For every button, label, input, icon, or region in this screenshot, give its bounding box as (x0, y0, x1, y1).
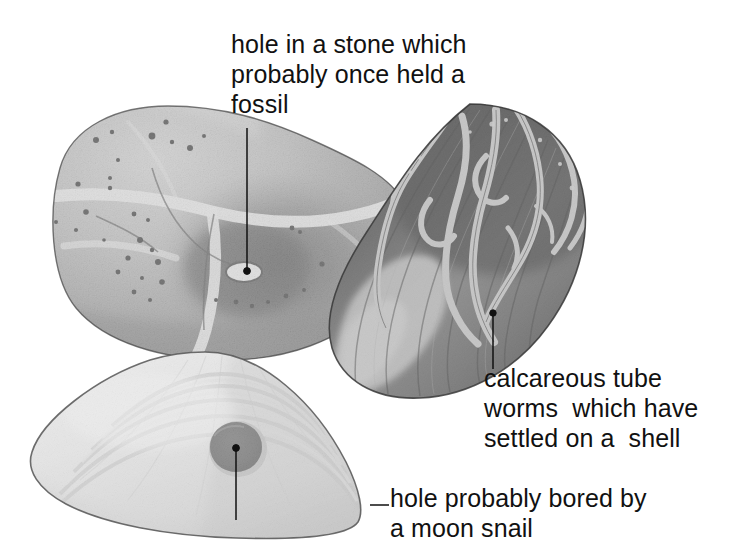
moon-snail-hole-label: hole probably bored by a moon snail (390, 483, 647, 543)
illustration-figure: hole in a stone which probably once held… (0, 0, 754, 550)
clam-shell (20, 340, 380, 550)
mussel-shell (320, 85, 610, 410)
calcareous-tube-worms-label: calcareous tube worms which have settled… (484, 363, 698, 453)
hole-in-stone-label: hole in a stone which probably once held… (231, 29, 467, 119)
